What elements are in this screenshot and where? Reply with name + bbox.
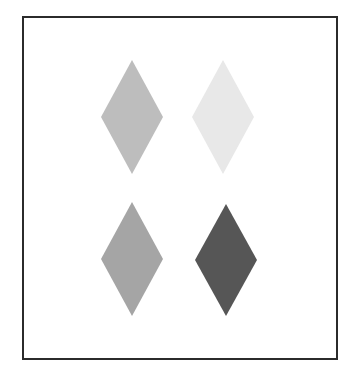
diagram-canvas: [0, 0, 344, 376]
border-frame: [23, 17, 337, 359]
